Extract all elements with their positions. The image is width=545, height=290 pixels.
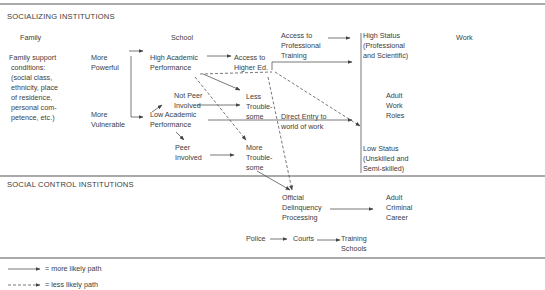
column-school: School [171, 33, 193, 43]
node-training-schools: Training Schools [341, 234, 367, 254]
node-courts: Courts [293, 234, 314, 244]
node-access-professional-training: Access to Professional Training [281, 31, 321, 61]
node-more-troublesome: More Trouble- some [246, 143, 273, 173]
node-police: Police [246, 234, 266, 244]
node-not-peer-involved: Not Peer Involved [174, 91, 202, 111]
section-socializing-institutions: SOCIALIZING INSTITUTIONS [7, 12, 115, 22]
node-high-status: High Status (Professional and Scientific… [363, 31, 408, 61]
section-social-control-institutions: SOCIAL CONTROL INSTITUTIONS [7, 180, 134, 190]
node-adult-work-roles: Adult Work Roles [386, 91, 404, 121]
node-more-vulnerable: More Vulnerable [91, 110, 125, 130]
legend-more-likely-path: = more likely path [45, 264, 102, 274]
node-peer-involved: Peer Involved [175, 143, 202, 163]
node-low-academic-performance: Low Academic Performance [150, 110, 196, 130]
node-official-delinquency-processing: Official Delinquency Processing [282, 193, 322, 223]
legend-less-likely-path: = less likely path [45, 280, 98, 290]
node-less-troublesome: Less Trouble- some [246, 92, 273, 122]
node-access-higher-ed: Access to Higher Ed. [234, 53, 268, 73]
column-work: Work [456, 33, 473, 43]
column-family: Family [20, 33, 41, 43]
node-adult-criminal-career: Adult Criminal Career [386, 193, 412, 223]
node-family-support: Family support conditions: (social class… [9, 53, 58, 123]
node-direct-entry: Direct Entry to world of work [281, 112, 327, 132]
node-more-powerful: More Powerful [91, 53, 119, 73]
node-low-status: Low Status (Unskilled and Semi-skilled) [363, 144, 409, 174]
node-high-academic-performance: High Academic Performance [150, 53, 198, 73]
